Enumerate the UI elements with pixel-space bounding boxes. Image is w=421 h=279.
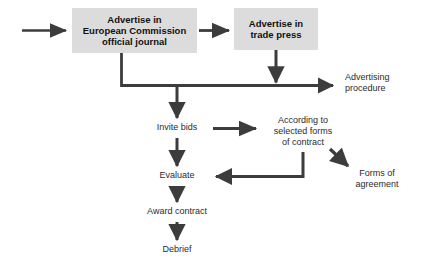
connector-ec-journal-drop-to-trunk: [122, 52, 334, 86]
node-advertise-trade-press-line2: trade press: [249, 29, 303, 40]
label-evaluate: Evaluate: [127, 170, 227, 181]
node-advertise-trade-press[interactable]: Advertise in trade press: [234, 8, 318, 50]
label-award-contract-line1: Award contract: [117, 206, 237, 217]
label-according-to-selected-forms-line3: of contract: [253, 137, 353, 148]
label-evaluate-line1: Evaluate: [127, 170, 227, 181]
label-advertising-procedure: Advertising procedure: [345, 72, 390, 94]
label-forms-of-agreement-line2: agreement: [334, 179, 420, 190]
node-advertise-ec-journal[interactable]: Advertise in European Commission officia…: [72, 8, 197, 53]
connector-selected-forms-to-forms-of-agreement: [330, 149, 348, 166]
label-advertising-procedure-line1: Advertising: [345, 72, 390, 83]
label-debrief: Debrief: [127, 244, 227, 255]
node-advertise-trade-press-line1: Advertise in: [249, 18, 303, 29]
label-invite-bids-line1: Invite bids: [127, 122, 227, 133]
label-according-to-selected-forms-line2: selected forms: [253, 126, 353, 137]
label-forms-of-agreement-line1: Forms of: [334, 168, 420, 179]
label-debrief-line1: Debrief: [127, 244, 227, 255]
label-award-contract: Award contract: [117, 206, 237, 217]
label-according-to-selected-forms: According to selected forms of contract: [253, 115, 353, 148]
label-according-to-selected-forms-line1: According to: [253, 115, 353, 126]
label-advertising-procedure-line2: procedure: [345, 83, 390, 94]
connector-selected-forms-to-evaluate: [216, 152, 303, 177]
label-invite-bids: Invite bids: [127, 122, 227, 133]
flowchart-canvas: Advertise in European Commission officia…: [0, 0, 421, 279]
label-forms-of-agreement: Forms of agreement: [334, 168, 420, 190]
node-advertise-ec-journal-line2: European Commission: [83, 25, 186, 36]
node-advertise-ec-journal-line1: Advertise in: [83, 14, 186, 25]
node-advertise-ec-journal-line3: official journal: [83, 36, 186, 47]
flowchart-connectors: [0, 0, 421, 279]
